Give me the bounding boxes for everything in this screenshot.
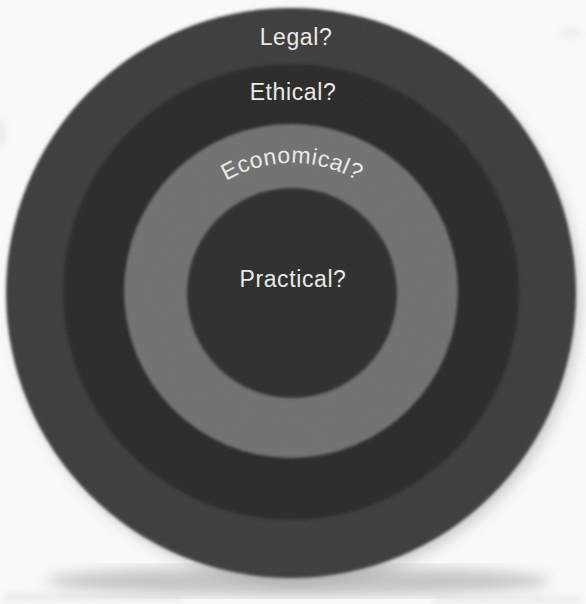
scanned-page: Legal? Ethical? Economical? Practical?	[0, 0, 586, 604]
concentric-rings-figure: Legal? Ethical? Economical? Practical?	[0, 0, 586, 604]
scan-grain-overlay	[0, 0, 586, 604]
